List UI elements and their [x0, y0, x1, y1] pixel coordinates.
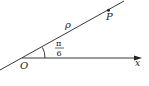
radius-label: ρ: [64, 19, 71, 30]
origin-label: O: [20, 60, 28, 71]
polar-coordinate-diagram: O P ρ x π 6: [0, 0, 149, 86]
axis-label: x: [135, 58, 140, 68]
point-label: P: [105, 11, 113, 22]
angle-arc: [43, 48, 46, 59]
angle-numerator: π: [56, 39, 61, 48]
angle-denominator: 6: [57, 49, 62, 58]
